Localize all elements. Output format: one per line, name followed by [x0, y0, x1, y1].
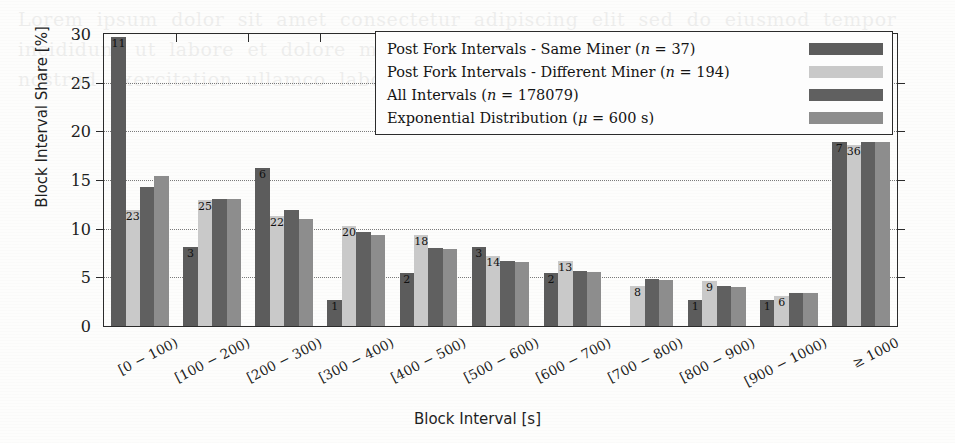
bar-group: 325 — [183, 34, 241, 326]
y-tick-label: 20 — [71, 122, 91, 141]
y-tick-mark — [96, 229, 104, 230]
bar: 6 — [774, 296, 788, 326]
x-tick-label: [100 − 200) — [172, 334, 252, 385]
y-tick-mark-right — [897, 83, 905, 84]
bar: 23 — [126, 210, 140, 326]
bar — [227, 199, 241, 326]
bar: 13 — [558, 261, 572, 326]
legend-row: Post Fork Intervals - Different Miner (n… — [387, 60, 883, 83]
bar-value-label: 36 — [847, 146, 861, 157]
bar — [875, 142, 889, 326]
y-tick-mark-right — [897, 229, 905, 230]
bar: 25 — [198, 200, 212, 326]
y-tick-label: 10 — [71, 219, 91, 238]
bar-value-label: 3 — [187, 248, 194, 259]
bar — [212, 199, 226, 327]
bar — [573, 271, 587, 326]
x-tick-label: [0 − 100) — [115, 334, 180, 378]
bar-value-label: 8 — [634, 287, 641, 298]
bar — [284, 210, 298, 326]
bar — [500, 261, 514, 326]
y-tick-mark — [96, 131, 104, 132]
bar — [443, 249, 457, 326]
y-tick-mark — [96, 180, 104, 181]
top-tick-mark — [248, 34, 249, 42]
legend-swatch — [809, 66, 883, 78]
bar — [154, 176, 168, 326]
x-tick-label: [500 − 600) — [460, 334, 540, 385]
x-tick-label: ≥ 1000 — [849, 334, 901, 371]
bar-value-label: 1 — [764, 301, 771, 312]
bar: 11 — [111, 37, 125, 326]
y-tick-label: 15 — [71, 171, 91, 190]
y-tick-mark-right — [897, 180, 905, 181]
legend-swatch — [809, 43, 883, 55]
bar: 3 — [183, 247, 197, 326]
bar — [356, 232, 370, 326]
bar — [717, 286, 731, 326]
bar: 9 — [702, 281, 716, 326]
bar — [645, 279, 659, 326]
bar-value-label: 2 — [547, 274, 554, 285]
x-tick-label: [600 − 700) — [533, 334, 613, 385]
y-tick-label: 30 — [71, 25, 91, 44]
legend-label: All Intervals (n = 178079) — [387, 87, 579, 103]
bar: 36 — [847, 145, 861, 326]
bar-value-label: 20 — [342, 227, 356, 238]
bar-value-label: 18 — [414, 236, 428, 247]
bar-value-label: 1 — [692, 301, 699, 312]
y-tick-mark — [96, 277, 104, 278]
bar-value-label: 7 — [836, 143, 843, 154]
bar-value-label: 11 — [111, 38, 125, 49]
bar: 1 — [327, 300, 341, 326]
x-axis-label: Block Interval [s] — [0, 410, 955, 428]
legend-label: Post Fork Intervals - Same Miner (n = 37… — [387, 41, 696, 57]
bar: 1 — [688, 300, 702, 326]
legend-swatch — [809, 89, 883, 101]
bar — [861, 142, 875, 326]
bar — [428, 248, 442, 326]
bar: 2 — [544, 273, 558, 326]
top-tick-mark — [176, 34, 177, 42]
x-tick-label: [400 − 500) — [388, 334, 468, 385]
bar-value-label: 1 — [331, 301, 338, 312]
bar: 2 — [400, 273, 414, 326]
y-tick-label: 25 — [71, 73, 91, 92]
bar-group: 622 — [255, 34, 313, 326]
bar — [731, 287, 745, 326]
y-tick-mark — [96, 83, 104, 84]
chart-legend: Post Fork Intervals - Same Miner (n = 37… — [375, 31, 893, 135]
top-tick-mark — [320, 34, 321, 42]
y-tick-label: 5 — [81, 268, 91, 287]
bar — [515, 262, 529, 326]
bar — [659, 280, 673, 326]
legend-row: Post Fork Intervals - Same Miner (n = 37… — [387, 37, 883, 60]
x-tick-label: [300 − 400) — [316, 334, 396, 385]
bar: 3 — [472, 247, 486, 326]
x-tick-label: [200 − 300) — [244, 334, 324, 385]
legend-label: Exponential Distribution (μ = 600 s) — [387, 110, 654, 126]
legend-label: Post Fork Intervals - Different Miner (n… — [387, 64, 730, 80]
bar-value-label: 2 — [403, 274, 410, 285]
x-tick-label: [700 − 800) — [605, 334, 685, 385]
bar — [299, 219, 313, 326]
bar: 6 — [255, 168, 269, 326]
bar: 20 — [342, 226, 356, 326]
bar-group: 1123 — [111, 34, 169, 326]
bar-value-label: 3 — [475, 248, 482, 259]
legend-row: All Intervals (n = 178079) — [387, 83, 883, 106]
y-axis-label: Block Interval Share [%] — [33, 0, 51, 237]
y-tick-mark-right — [897, 131, 905, 132]
bar: 14 — [486, 256, 500, 326]
bar: 7 — [832, 142, 846, 326]
bar — [140, 187, 154, 326]
chart-figure: Block Interval Share [%] Block Interval … — [0, 0, 955, 443]
bar-value-label: 6 — [259, 169, 266, 180]
bar: 1 — [760, 300, 774, 326]
legend-swatch — [809, 112, 883, 124]
bar: 8 — [630, 286, 644, 326]
bar — [587, 272, 601, 327]
bar-value-label: 22 — [270, 217, 284, 228]
bar-value-label: 9 — [706, 282, 713, 293]
bar-value-label: 13 — [558, 262, 572, 273]
